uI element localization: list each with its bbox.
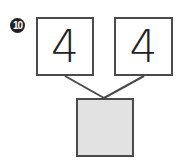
top-right-number-box: 4	[114, 17, 173, 76]
top-left-number-box: 4	[36, 17, 94, 76]
answer-box[interactable]	[76, 98, 134, 157]
right-connector-line	[104, 76, 144, 98]
left-connector-line	[65, 76, 104, 98]
top-left-value: 4	[51, 21, 79, 72]
top-right-value: 4	[130, 21, 158, 72]
